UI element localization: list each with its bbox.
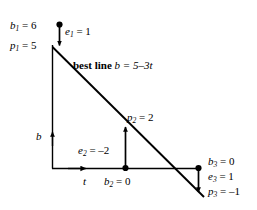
label-e2: e2 = –2 bbox=[78, 145, 109, 158]
data-point-b1 bbox=[56, 21, 62, 27]
label-p3: p3 = –1 bbox=[208, 186, 240, 199]
best-fit-line-figure: b1 = 6 e1 = 1 p1 = 5 best line b = 5–3t … bbox=[0, 0, 257, 210]
label-b1: b1 = 6 bbox=[10, 20, 36, 33]
axis-label-b: b bbox=[36, 131, 42, 142]
label-b2: b2 = 0 bbox=[104, 176, 130, 189]
data-point-b2 bbox=[122, 165, 128, 171]
axis-label-t: t bbox=[83, 176, 86, 187]
label-b3: b3 = 0 bbox=[208, 156, 234, 169]
label-p2: p2 = 2 bbox=[127, 112, 153, 125]
best-line-title: best line b = 5–3t bbox=[73, 60, 153, 71]
label-e3: e3 = 1 bbox=[208, 171, 234, 184]
label-p1: p1 = 5 bbox=[10, 40, 36, 53]
data-point-b3 bbox=[195, 165, 201, 171]
label-e1: e1 = 1 bbox=[65, 26, 91, 39]
